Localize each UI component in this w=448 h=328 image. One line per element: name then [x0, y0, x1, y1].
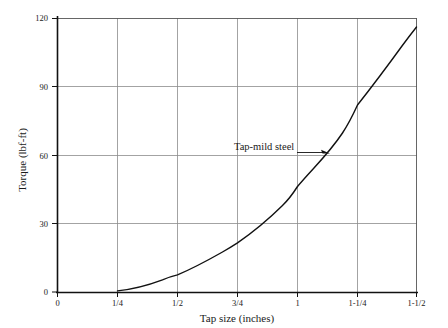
x-axis-title: Tap size (inches) [200, 312, 275, 325]
y-tick-label-60: 60 [40, 151, 49, 161]
y-tick-label-120: 120 [35, 13, 48, 23]
x-tick-label-one: 1 [295, 298, 299, 308]
torque-vs-tap-size-chart: 120 90 60 30 0 0 1/4 1/2 3/4 1 1-1/4 1-1… [0, 0, 448, 328]
y-axis-title: Torque (lbf-ft) [16, 128, 29, 192]
y-tick-label-0: 0 [44, 287, 48, 297]
x-tick-label-0: 0 [55, 298, 59, 308]
chart-page: 120 90 60 30 0 0 1/4 1/2 3/4 1 1-1/4 1-1… [0, 0, 448, 328]
x-tick-label-one-and-quarter: 1-1/4 [349, 298, 368, 308]
y-tick-label-30: 30 [40, 219, 49, 229]
x-tick-label-one-and-half: 1-1/2 [408, 298, 426, 308]
x-tick-label-quarter: 1/4 [112, 298, 124, 308]
y-tick-label-90: 90 [40, 82, 49, 92]
chart-background [0, 0, 448, 328]
x-tick-label-three-quarter: 3/4 [232, 298, 244, 308]
annotation-label-text: Tap-mild steel [234, 141, 294, 152]
x-tick-label-half: 1/2 [172, 298, 183, 308]
